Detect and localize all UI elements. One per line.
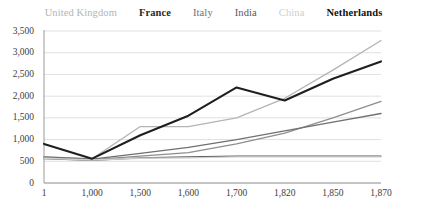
x-axis-tick-label: 1,700 xyxy=(214,189,260,199)
legend-item-italy[interactable]: Italy xyxy=(193,8,213,19)
y-axis-tick-label: 0 xyxy=(0,179,34,189)
y-axis-tick-label: 2,500 xyxy=(0,70,34,80)
plot-area: 05001,0001,5002,0002,5003,0003,50011,000… xyxy=(0,26,421,212)
x-axis-tick-label: 1,600 xyxy=(165,189,211,199)
series-line-united-kingdom xyxy=(44,41,381,159)
legend-item-china[interactable]: China xyxy=(279,8,305,19)
legend-item-france[interactable]: France xyxy=(139,8,171,19)
legend-item-united-kingdom[interactable]: United Kingdom xyxy=(45,8,117,19)
y-axis-tick-label: 1,000 xyxy=(0,135,34,145)
line-chart: United KingdomFranceItalyIndiaChinaNethe… xyxy=(0,0,421,212)
series-line-italy xyxy=(44,114,381,160)
legend-item-netherlands[interactable]: Netherlands xyxy=(326,8,382,19)
chart-legend: United KingdomFranceItalyIndiaChinaNethe… xyxy=(0,0,421,26)
x-axis-tick-label: 1,820 xyxy=(262,189,308,199)
y-axis-tick-label: 2,000 xyxy=(0,92,34,102)
x-axis-tick-label: 1 xyxy=(21,189,67,199)
plot-svg xyxy=(0,26,421,212)
series-lines xyxy=(44,41,381,161)
x-axis-tick-label: 1,850 xyxy=(310,189,356,199)
x-axis-tick-label: 1,500 xyxy=(117,189,163,199)
x-axis-tick-label: 1,000 xyxy=(69,189,115,199)
series-line-france xyxy=(44,101,381,159)
y-axis-tick-label: 1,500 xyxy=(0,113,34,123)
legend-item-india[interactable]: India xyxy=(235,8,257,19)
y-axis-tick-label: 3,500 xyxy=(0,27,34,37)
y-axis-tick-label: 3,000 xyxy=(0,48,34,58)
y-axis-tick-label: 500 xyxy=(0,157,34,167)
x-axis-tick-label: 1,870 xyxy=(358,189,404,199)
